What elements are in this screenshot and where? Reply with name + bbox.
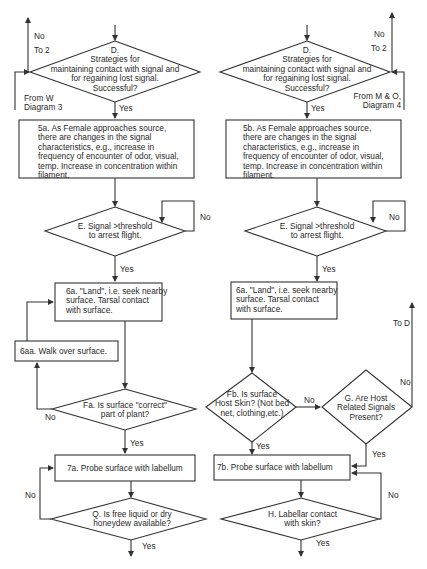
right-h-yes-label: Yes xyxy=(316,538,330,548)
left-e-no-label: No xyxy=(200,212,211,222)
text-line: Successful? xyxy=(40,84,190,93)
text-line: Diagram 3 xyxy=(24,103,62,112)
text-line: Present? xyxy=(326,413,406,422)
right-step-6a-text: 6a. "Land", i.e. seek nearby surface. Ta… xyxy=(236,286,346,314)
right-decision-e-text: E. Signal >threshold to arrest flight. xyxy=(262,222,372,241)
right-d-no-label: No xyxy=(374,29,385,39)
text-line: filament. xyxy=(243,171,399,180)
right-step-7b-text: 7b. Probe surface with labellum xyxy=(217,462,333,472)
left-e-yes-label: Yes xyxy=(120,264,134,274)
left-q-yes-label: Yes xyxy=(142,541,156,551)
left-decision-q-text: Q. Is free liquid or dry honeydew availa… xyxy=(77,510,187,529)
right-d-yes-label: Yes xyxy=(311,103,325,113)
right-e-yes-label: Yes xyxy=(322,264,336,274)
right-fb-yes-label: Yes xyxy=(256,441,270,451)
right-d-from-label: From M & O, Diagram 4 xyxy=(345,92,401,111)
left-decision-fa-text: Fa. Is surface "correct" part of plant? xyxy=(72,401,178,420)
right-decision-d-text: D. Strategies for maintaining contact wi… xyxy=(232,46,382,93)
right-decision-fb-text: Fb. Is surface Host Skin? (Not bed net, … xyxy=(210,390,294,418)
right-g-no-label: No xyxy=(400,377,411,387)
text-line: net, clothing,etc.) xyxy=(210,409,294,418)
text-line: to arrest flight. xyxy=(60,231,170,240)
right-e-no-label: No xyxy=(389,212,400,222)
left-d-from-label: From W Diagram 3 xyxy=(24,94,62,113)
text-line: Diagram 4 xyxy=(345,101,401,110)
text-line: honeydew available? xyxy=(77,519,187,528)
left-step-6aa-text: 6aa. Walk over surface. xyxy=(20,346,107,356)
text-line: with skin? xyxy=(255,519,350,528)
right-decision-g-text: G. Are Host Related Signals Present? xyxy=(326,394,406,422)
text-line: to arrest flight. xyxy=(262,231,372,240)
left-decision-e-text: E. Signal >threshold to arrest flight. xyxy=(60,222,170,241)
right-fb-no-label: No xyxy=(304,395,315,405)
right-g-to-label: To D xyxy=(393,318,410,328)
left-decision-d-text: D. Strategies for maintaining contact wi… xyxy=(40,46,190,93)
left-fa-no-label: No xyxy=(45,412,56,422)
left-fa-yes-label: Yes xyxy=(130,438,144,448)
left-step-5a-text: 5a. As Female approaches source, there a… xyxy=(38,124,194,180)
left-step-6a-text: 6a. "Land", i.e. seek nearby surface. Ta… xyxy=(66,287,186,315)
right-g-yes-label: Yes xyxy=(372,449,386,459)
left-d-yes-label: Yes xyxy=(119,103,133,113)
left-d-no-label: No xyxy=(34,31,45,41)
text-line: with surface. xyxy=(236,305,346,314)
right-step-5b-text: 5b. As Female approaches source, there a… xyxy=(243,124,399,180)
left-q-no-label: No xyxy=(25,490,36,500)
text-line: part of plant? xyxy=(72,410,178,419)
text-line: with surface. xyxy=(66,306,186,315)
text-line: filament. xyxy=(38,171,194,180)
left-step-7a-text: 7a. Probe surface with labellum xyxy=(67,463,183,473)
right-decision-h-text: H. Labellar contact with skin? xyxy=(255,510,350,529)
right-h-no-label: No xyxy=(388,490,399,500)
